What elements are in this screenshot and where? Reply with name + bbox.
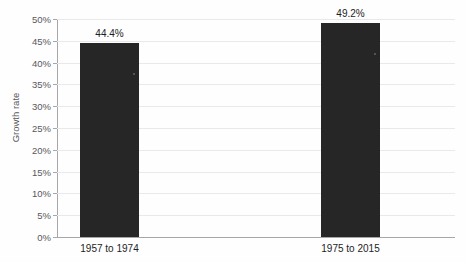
- y-axis-tick-label: 5%: [7, 210, 51, 221]
- axis-baseline: [57, 237, 455, 238]
- x-axis-category-label: 1957 to 1974: [80, 243, 138, 254]
- y-axis-tick: [53, 150, 57, 151]
- y-axis-tick: [53, 172, 57, 173]
- bar-chart: Growth rate 50%45%40%35%30%25%20%15%10%5…: [0, 0, 466, 262]
- grid-line: [57, 19, 455, 20]
- y-axis-tick: [53, 63, 57, 64]
- y-axis-tick-label: 10%: [7, 188, 51, 199]
- y-axis-tick-label: 30%: [7, 101, 51, 112]
- bar[interactable]: [321, 23, 380, 238]
- y-axis-tick-label: 50%: [7, 14, 51, 25]
- bar-value-label: 49.2%: [336, 8, 364, 19]
- y-axis-tick: [53, 215, 57, 216]
- y-axis-tick: [53, 84, 57, 85]
- y-axis-tick: [53, 106, 57, 107]
- y-axis-tick: [53, 41, 57, 42]
- y-axis-tick: [53, 19, 57, 20]
- y-axis-tick-label: 20%: [7, 144, 51, 155]
- cropped-title-remnant: [196, 0, 446, 3]
- bar[interactable]: [80, 43, 139, 237]
- y-axis-tick: [53, 193, 57, 194]
- y-axis-tick: [53, 237, 57, 238]
- bar-value-label: 44.4%: [95, 28, 123, 39]
- y-axis-tick: [53, 128, 57, 129]
- y-axis-tick-label: 40%: [7, 57, 51, 68]
- grid-line: [57, 41, 455, 42]
- y-axis-labels: Growth rate 50%45%40%35%30%25%20%15%10%5…: [0, 0, 51, 262]
- plot-area: 44.4%49.2%: [57, 19, 455, 237]
- y-axis-tick-label: 0%: [7, 232, 51, 243]
- y-axis-tick-label: 45%: [7, 35, 51, 46]
- y-axis-tick-label: 15%: [7, 166, 51, 177]
- y-axis-tick-label: 25%: [7, 123, 51, 134]
- x-axis-category-label: 1975 to 2015: [321, 243, 379, 254]
- y-axis-tick-label: 35%: [7, 79, 51, 90]
